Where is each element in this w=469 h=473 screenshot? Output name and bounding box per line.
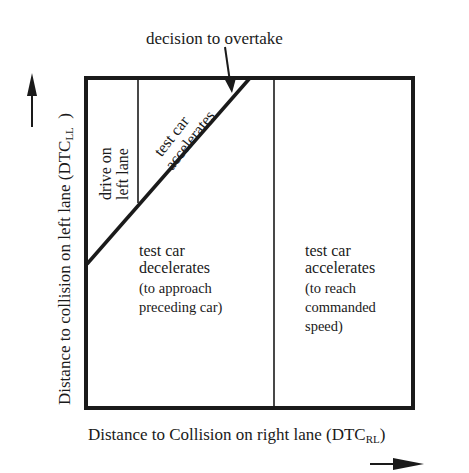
y-axis-label: Distance to collision on left lane (DTCL… bbox=[56, 113, 75, 405]
region-accel-right-line5: speed) bbox=[305, 317, 376, 336]
x-axis-label-text: Distance to Collision on right lane (DTC bbox=[88, 425, 366, 444]
y-axis-label-text: Distance to collision on left lane (DTC bbox=[55, 141, 74, 405]
region-decel-line4: preceding car) bbox=[139, 298, 222, 317]
region-accel-right-line2: accelerates bbox=[305, 259, 376, 276]
x-axis-label-subscript: RL bbox=[366, 433, 380, 445]
x-axis-label-close: ) bbox=[380, 425, 386, 444]
region-drive-left-line2: left lane bbox=[114, 147, 131, 200]
y-axis-arrow-head-icon bbox=[27, 73, 37, 96]
x-axis-arrow-head-icon bbox=[393, 458, 424, 470]
region-accel-right-line4: commanded bbox=[305, 298, 376, 317]
y-axis-label-close: ) bbox=[55, 113, 74, 119]
y-axis-label-subscript: LL bbox=[63, 127, 75, 140]
region-decel-line2: decelerates bbox=[139, 259, 222, 276]
region-accel-right-line3: (to reach bbox=[305, 279, 376, 298]
region-drive-left-lane: drive on left lane bbox=[97, 147, 131, 200]
region-accel-right-line1: test car bbox=[305, 242, 376, 259]
region-accelerates-right: test car accelerates (to reach commanded… bbox=[305, 242, 376, 336]
region-decel-line3: (to approach bbox=[139, 279, 222, 298]
decision-to-overtake-label: decision to overtake bbox=[146, 30, 283, 47]
region-decelerates: test car decelerates (to approach preced… bbox=[139, 242, 222, 317]
region-decel-line1: test car bbox=[139, 242, 222, 259]
decision-arrow-head-icon bbox=[224, 78, 236, 93]
region-drive-left-line1: drive on bbox=[97, 147, 114, 200]
x-axis-label: Distance to Collision on right lane (DTC… bbox=[88, 426, 385, 445]
